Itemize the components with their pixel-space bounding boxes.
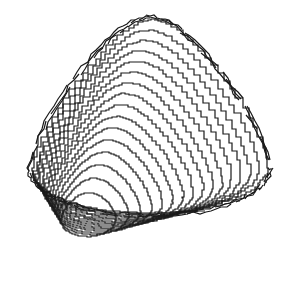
- contour-line: [33, 30, 259, 214]
- outline-edge: [32, 18, 270, 215]
- contour-line: [32, 19, 268, 213]
- contour-drawing: [0, 0, 282, 297]
- contour-figure: [0, 0, 282, 297]
- outline-edge: [28, 16, 271, 217]
